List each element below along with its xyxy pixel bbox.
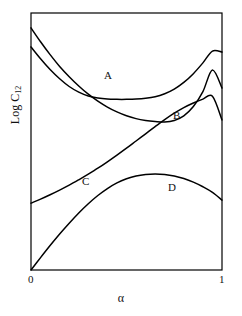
curve-label-b: B <box>173 110 180 121</box>
y-axis-label-subscript: 12 <box>14 86 23 94</box>
plot-frame <box>31 13 222 270</box>
x-axis-label: α <box>0 291 242 306</box>
plot-area <box>0 0 242 316</box>
curve-label-c: C <box>82 176 89 187</box>
y-axis-label-main: Log C <box>8 94 22 124</box>
curve-label-a: A <box>104 70 112 81</box>
x-axis-tick-0: 0 <box>28 274 34 285</box>
y-axis-label-wrapper: Log C12 <box>5 45 23 165</box>
figure-container: A B C D 0 1 α Log C12 <box>0 0 242 316</box>
y-axis-label: Log C12 <box>8 86 22 124</box>
x-axis-tick-1: 1 <box>219 274 225 285</box>
curve-label-d: D <box>168 182 176 193</box>
